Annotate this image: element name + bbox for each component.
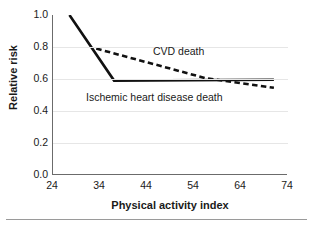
y-tick-label: 0.8 [22, 41, 48, 52]
x-tick-label: 34 [84, 179, 114, 191]
chart-figure: Relative risk 1.0 0.8 0.6 0.4 0.2 0.0 24… [0, 0, 313, 227]
series-annotation-cvd-death: CVD death [153, 45, 204, 57]
gridline-0.4 [53, 111, 288, 112]
footer-divider [6, 219, 307, 220]
y-axis-tick-labels: 1.0 0.8 0.6 0.4 0.2 0.0 [18, 0, 48, 227]
series-annotation-ischemic-heart-disease-death: Ischemic heart disease death [86, 91, 223, 103]
y-tick-label: 0.6 [22, 73, 48, 84]
x-tick-label: 24 [37, 179, 67, 191]
x-tick-label: 54 [178, 179, 208, 191]
y-tick-label: 0.4 [22, 105, 48, 116]
gridline-0.2 [53, 143, 288, 144]
y-tick-label: 1.0 [22, 9, 48, 20]
gridline-0.6 [53, 79, 288, 80]
x-tick-label: 44 [131, 179, 161, 191]
x-axis-title: Physical activity index [52, 199, 288, 211]
x-tick-label: 64 [225, 179, 255, 191]
x-tick-label: 74 [272, 179, 302, 191]
y-tick-label: 0.2 [22, 137, 48, 148]
